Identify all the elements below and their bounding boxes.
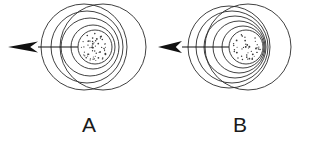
panel-a-source-core	[78, 30, 112, 64]
figure-background	[0, 0, 313, 147]
panel-b-label: B	[233, 113, 247, 136]
panel-a-label: A	[82, 113, 96, 136]
doppler-diagram-svg: A B	[0, 0, 313, 147]
figure-container: A B	[0, 0, 313, 147]
panel-b-source-core	[229, 30, 263, 64]
